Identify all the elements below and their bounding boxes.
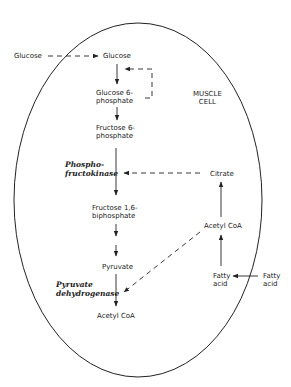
muscle-cell-label: MUSCLE CELL — [193, 90, 222, 106]
diagram-lines — [0, 0, 291, 387]
glucose-outside-label: Glucose — [14, 52, 42, 60]
fatty-acid-outside-label: Fatty acid — [263, 272, 280, 288]
acetylcoa-inhibition-arrow — [124, 232, 200, 292]
acetyl-coa-glycolysis-label: Acetyl CoA — [97, 312, 135, 320]
pyruvate-dehydrogenase-label: Pyruvate dehydrogenase — [56, 281, 119, 298]
glucose-fatty-acid-cycle-diagram: Glucose Glucose Glucose 6- phosphate Fru… — [0, 0, 291, 387]
cell-membrane — [14, 23, 262, 377]
acetyl-coa-fatty-label: Acetyl CoA — [204, 222, 242, 230]
pyruvate-label: Pyruvate — [102, 263, 133, 271]
citrate-label: Citrate — [210, 170, 234, 178]
fructose-6-phosphate-label: Fructose 6- phosphate — [96, 124, 135, 140]
glucose-inside-label: Glucose — [103, 52, 131, 60]
glucose-6-phosphate-label: Glucose 6- phosphate — [96, 89, 133, 105]
phosphofructokinase-label: Phospho- fructokinase — [65, 161, 118, 178]
fatty-acid-inside-label: Fatty acid — [213, 272, 230, 288]
fructose-1-6-biphosphate-label: Fructose 1,6- biphosphate — [92, 204, 138, 220]
